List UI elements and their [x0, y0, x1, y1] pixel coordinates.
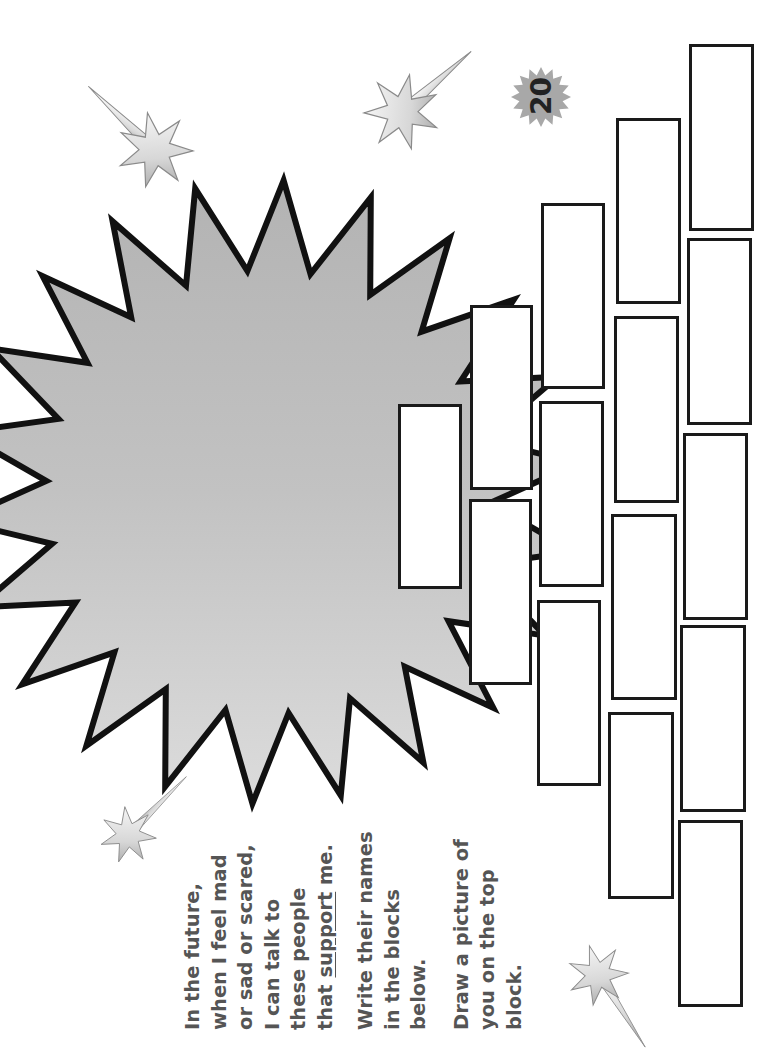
starburst-icon	[0, 180, 579, 803]
name-block[interactable]	[689, 44, 754, 231]
name-block[interactable]	[678, 820, 743, 1007]
name-block[interactable]	[687, 238, 752, 425]
name-block[interactable]	[616, 118, 681, 304]
instructions: In the future, when I feel mad or sad or…	[180, 830, 542, 1030]
top-drawing-block[interactable]	[398, 404, 462, 589]
name-block[interactable]	[683, 433, 748, 620]
name-block[interactable]	[680, 625, 746, 812]
name-block[interactable]	[469, 499, 532, 685]
name-block[interactable]	[608, 712, 674, 899]
instruction-paragraph-1: In the future, when I feel mad or sad or…	[180, 830, 339, 1030]
underlined-word-support: support	[314, 892, 337, 978]
instruction-text: me.	[314, 844, 337, 892]
name-block[interactable]	[537, 600, 601, 786]
name-block[interactable]	[539, 401, 604, 587]
instruction-paragraph-2: Write their names in the blocks below.	[353, 830, 433, 1030]
shooting-star-icon	[555, 933, 681, 1047]
name-block[interactable]	[541, 203, 605, 389]
instruction-paragraph-3: Draw a picture of you on the top block.	[449, 830, 529, 1030]
shooting-star-icon	[349, 24, 494, 162]
name-block[interactable]	[614, 316, 679, 503]
page-number-text: 20	[525, 78, 558, 115]
name-block[interactable]	[470, 305, 533, 490]
name-block[interactable]	[611, 514, 677, 700]
shooting-star-icon	[63, 62, 208, 200]
page-number: 20	[516, 68, 566, 124]
